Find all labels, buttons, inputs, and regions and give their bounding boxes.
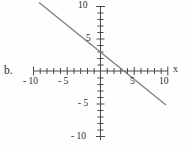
- y-tick-label-neg10: - 10: [71, 131, 86, 141]
- y-tick-label-neg5: - 5: [78, 98, 88, 108]
- x-axis-label: x: [173, 63, 178, 74]
- x-tick-label-5: 5: [130, 76, 135, 86]
- x-tick-label-neg10: - 10: [23, 76, 38, 86]
- y-tick-label-10: 10: [78, 0, 88, 10]
- y-tick-label-5: 5: [86, 33, 91, 43]
- x-tick-label-neg5: - 5: [58, 76, 68, 86]
- graph-figure: b. x - 10 - 5 5 10 10 5 - 5 - 10: [0, 0, 188, 153]
- x-tick-label-10: 10: [159, 76, 169, 86]
- panel-label: b.: [4, 64, 13, 76]
- data-line-series: [39, 3, 166, 106]
